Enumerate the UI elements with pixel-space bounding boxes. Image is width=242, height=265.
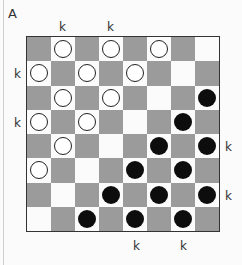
square-r5-c2[interactable] bbox=[75, 158, 99, 182]
white-piece[interactable] bbox=[78, 64, 96, 82]
square-r2-c4[interactable] bbox=[123, 86, 147, 110]
square-r3-c5[interactable] bbox=[147, 110, 171, 134]
white-piece[interactable] bbox=[54, 89, 72, 107]
black-piece[interactable] bbox=[126, 161, 144, 179]
square-r5-c6[interactable] bbox=[171, 158, 195, 182]
square-r4-c0[interactable] bbox=[27, 134, 51, 158]
white-piece[interactable] bbox=[54, 137, 72, 155]
white-piece[interactable] bbox=[30, 113, 48, 131]
square-r5-c3[interactable] bbox=[99, 158, 123, 182]
square-r1-c2[interactable] bbox=[75, 61, 99, 85]
square-r6-c2[interactable] bbox=[75, 183, 99, 207]
black-piece[interactable] bbox=[198, 137, 216, 155]
white-piece[interactable] bbox=[30, 64, 48, 82]
square-r7-c4[interactable] bbox=[123, 207, 147, 231]
square-r0-c3[interactable] bbox=[99, 37, 123, 61]
square-r6-c3[interactable] bbox=[99, 183, 123, 207]
white-piece[interactable] bbox=[126, 64, 144, 82]
square-r3-c4[interactable] bbox=[123, 110, 147, 134]
square-r4-c2[interactable] bbox=[75, 134, 99, 158]
square-r5-c7[interactable] bbox=[195, 158, 219, 182]
white-piece[interactable] bbox=[102, 89, 120, 107]
diagram-label: A bbox=[8, 6, 17, 21]
square-r3-c7[interactable] bbox=[195, 110, 219, 134]
square-r4-c3[interactable] bbox=[99, 134, 123, 158]
margin-line bbox=[3, 0, 4, 265]
square-r1-c5[interactable] bbox=[147, 61, 171, 85]
square-r3-c1[interactable] bbox=[51, 110, 75, 134]
black-piece[interactable] bbox=[102, 186, 120, 204]
square-r1-c0[interactable] bbox=[27, 61, 51, 85]
square-r7-c5[interactable] bbox=[147, 207, 171, 231]
square-r0-c1[interactable] bbox=[51, 37, 75, 61]
black-piece[interactable] bbox=[174, 161, 192, 179]
king-label-top-col1: k bbox=[59, 21, 66, 33]
black-piece[interactable] bbox=[126, 210, 144, 228]
square-r5-c5[interactable] bbox=[147, 158, 171, 182]
king-label-left-row3: k bbox=[14, 117, 21, 129]
black-piece[interactable] bbox=[174, 113, 192, 131]
square-r7-c0[interactable] bbox=[27, 207, 51, 231]
square-r4-c1[interactable] bbox=[51, 134, 75, 158]
square-r0-c5[interactable] bbox=[147, 37, 171, 61]
square-r4-c5[interactable] bbox=[147, 134, 171, 158]
square-r0-c2[interactable] bbox=[75, 37, 99, 61]
white-piece[interactable] bbox=[102, 40, 120, 58]
square-r1-c3[interactable] bbox=[99, 61, 123, 85]
square-r3-c3[interactable] bbox=[99, 110, 123, 134]
square-r2-c7[interactable] bbox=[195, 86, 219, 110]
square-r2-c2[interactable] bbox=[75, 86, 99, 110]
black-piece[interactable] bbox=[198, 186, 216, 204]
square-r7-c3[interactable] bbox=[99, 207, 123, 231]
king-label-top-col3: k bbox=[107, 21, 114, 33]
square-r2-c6[interactable] bbox=[171, 86, 195, 110]
square-r4-c7[interactable] bbox=[195, 134, 219, 158]
square-r2-c5[interactable] bbox=[147, 86, 171, 110]
king-label-right-row4: k bbox=[225, 141, 232, 153]
square-r7-c2[interactable] bbox=[75, 207, 99, 231]
square-r6-c7[interactable] bbox=[195, 183, 219, 207]
square-r1-c1[interactable] bbox=[51, 61, 75, 85]
square-r7-c6[interactable] bbox=[171, 207, 195, 231]
square-r1-c6[interactable] bbox=[171, 61, 195, 85]
square-r1-c7[interactable] bbox=[195, 61, 219, 85]
king-label-bottom-col4: k bbox=[133, 240, 140, 252]
square-r5-c4[interactable] bbox=[123, 158, 147, 182]
square-r0-c7[interactable] bbox=[195, 37, 219, 61]
square-r3-c6[interactable] bbox=[171, 110, 195, 134]
black-piece[interactable] bbox=[150, 137, 168, 155]
black-piece[interactable] bbox=[78, 210, 96, 228]
white-piece[interactable] bbox=[150, 40, 168, 58]
square-r6-c5[interactable] bbox=[147, 183, 171, 207]
square-r6-c1[interactable] bbox=[51, 183, 75, 207]
king-label-right-row6: k bbox=[225, 190, 232, 202]
square-r6-c6[interactable] bbox=[171, 183, 195, 207]
square-r7-c7[interactable] bbox=[195, 207, 219, 231]
square-r5-c0[interactable] bbox=[27, 158, 51, 182]
square-r3-c0[interactable] bbox=[27, 110, 51, 134]
black-piece[interactable] bbox=[198, 89, 216, 107]
white-piece[interactable] bbox=[30, 161, 48, 179]
white-piece[interactable] bbox=[78, 113, 96, 131]
black-piece[interactable] bbox=[174, 210, 192, 228]
square-r2-c1[interactable] bbox=[51, 86, 75, 110]
square-r1-c4[interactable] bbox=[123, 61, 147, 85]
king-label-left-row1: k bbox=[14, 68, 21, 80]
square-r4-c6[interactable] bbox=[171, 134, 195, 158]
checkers-board bbox=[26, 36, 220, 232]
square-r6-c0[interactable] bbox=[27, 183, 51, 207]
square-r4-c4[interactable] bbox=[123, 134, 147, 158]
square-r0-c0[interactable] bbox=[27, 37, 51, 61]
square-r0-c4[interactable] bbox=[123, 37, 147, 61]
king-label-bottom-col6: k bbox=[180, 240, 187, 252]
square-r3-c2[interactable] bbox=[75, 110, 99, 134]
square-r2-c0[interactable] bbox=[27, 86, 51, 110]
square-r0-c6[interactable] bbox=[171, 37, 195, 61]
square-r7-c1[interactable] bbox=[51, 207, 75, 231]
square-r5-c1[interactable] bbox=[51, 158, 75, 182]
white-piece[interactable] bbox=[54, 40, 72, 58]
square-r6-c4[interactable] bbox=[123, 183, 147, 207]
square-r2-c3[interactable] bbox=[99, 86, 123, 110]
black-piece[interactable] bbox=[150, 186, 168, 204]
